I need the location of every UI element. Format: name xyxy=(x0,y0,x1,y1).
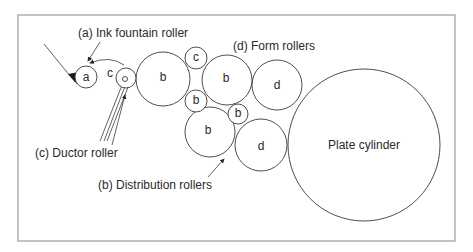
roller-letter: c xyxy=(193,50,199,64)
inking-system-diagram: Plate cylinder d d b b b c b b a xyxy=(0,0,473,252)
label-form-rollers: (d) Form rollers xyxy=(233,39,315,53)
plate-cylinder-label: Plate cylinder xyxy=(328,138,400,152)
label-ductor-roller: (c) Ductor roller xyxy=(35,146,118,160)
distribution-roller-small-top: c xyxy=(185,47,207,69)
roller-letter: b xyxy=(160,70,167,84)
ductor-letter: c xyxy=(107,66,113,80)
distribution-roller-small-middle: b xyxy=(185,90,207,112)
roller-letter: a xyxy=(83,70,90,84)
plate-cylinder: Plate cylinder xyxy=(288,69,440,221)
distribution-roller-small-right: b xyxy=(228,104,248,124)
roller-letter: b xyxy=(193,93,200,107)
ink-fountain-roller: a xyxy=(75,66,97,88)
roller-letter: d xyxy=(274,78,281,92)
form-roller-upper: d xyxy=(252,60,302,110)
form-roller-lower: d xyxy=(235,119,287,171)
roller-letter: b xyxy=(235,106,242,120)
distribution-roller-large-left: b xyxy=(136,52,190,106)
roller-letter: d xyxy=(258,139,265,153)
distribution-roller-large-right: b xyxy=(202,55,252,105)
label-distribution-rollers: (b) Distribution rollers xyxy=(98,178,212,192)
roller-letter: b xyxy=(205,123,212,137)
label-ink-fountain-roller: (a) Ink fountain roller xyxy=(78,26,188,40)
roller-letter: b xyxy=(223,71,230,85)
distribution-roller-lower: b xyxy=(185,107,235,157)
